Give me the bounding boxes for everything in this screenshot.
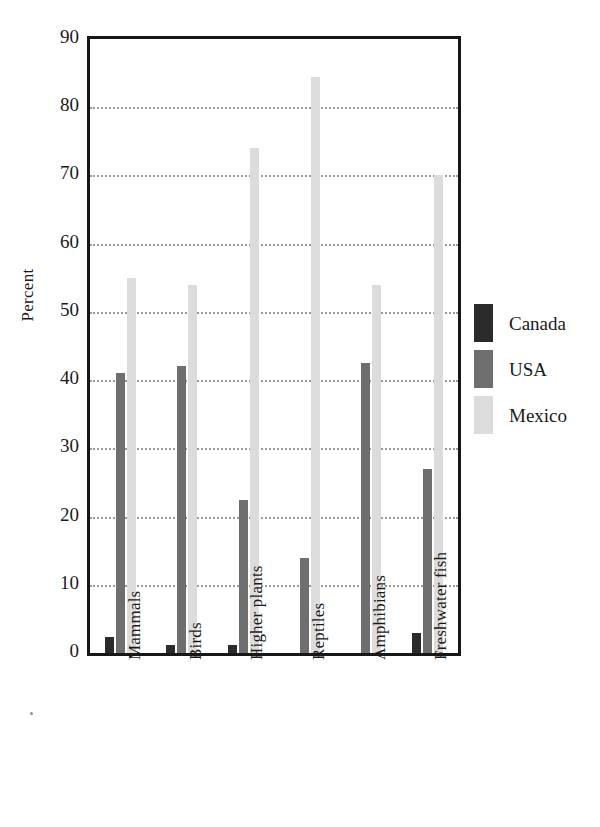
legend-label: USA — [509, 360, 547, 379]
bar-canada[interactable] — [228, 645, 237, 653]
x-tick-label: Amphibians — [370, 575, 390, 660]
bar-mexico[interactable] — [311, 77, 320, 653]
x-tick-label: Freshwater fish — [431, 552, 451, 660]
bar-canada[interactable] — [412, 633, 421, 653]
x-tick-label: Mammals — [125, 591, 145, 660]
x-tick-label: Higher plants — [247, 565, 267, 660]
legend-item[interactable]: USA — [474, 346, 567, 392]
y-axis-title: Percent — [18, 230, 38, 360]
bar-group — [213, 39, 274, 653]
y-tick-label: 20 — [39, 505, 79, 524]
y-tick-label: 30 — [39, 436, 79, 455]
x-tick-label: Birds — [186, 622, 206, 660]
y-tick-label: 90 — [39, 27, 79, 46]
bar-usa[interactable] — [116, 373, 125, 653]
y-tick-label: 10 — [39, 573, 79, 592]
bar-group — [335, 39, 396, 653]
scan-speck — [30, 712, 33, 715]
bar-mexico[interactable] — [188, 285, 197, 653]
bar-group — [90, 39, 151, 653]
y-tick-label: 50 — [39, 300, 79, 319]
y-tick-label: 40 — [39, 368, 79, 387]
bar-group — [151, 39, 212, 653]
y-tick-label: 70 — [39, 163, 79, 182]
bar-canada[interactable] — [166, 645, 175, 653]
bar-usa[interactable] — [300, 558, 309, 654]
y-tick-label: 0 — [39, 641, 79, 660]
bar-chart-figure: Percent 9080706050403020100 MammalsBirds… — [0, 0, 600, 827]
legend-item[interactable]: Canada — [474, 300, 567, 346]
x-tick-label: Reptiles — [309, 603, 329, 660]
legend: CanadaUSAMexico — [474, 300, 567, 438]
y-tick-label: 80 — [39, 95, 79, 114]
legend-swatch-icon — [474, 304, 493, 342]
plot-area — [87, 36, 461, 656]
bar-group — [274, 39, 335, 653]
legend-swatch-icon — [474, 350, 493, 388]
legend-label: Mexico — [509, 406, 567, 425]
bar-usa[interactable] — [177, 366, 186, 653]
bar-canada[interactable] — [105, 637, 114, 653]
legend-item[interactable]: Mexico — [474, 392, 567, 438]
legend-swatch-icon — [474, 396, 493, 434]
y-tick-label: 60 — [39, 232, 79, 251]
legend-label: Canada — [509, 314, 566, 333]
